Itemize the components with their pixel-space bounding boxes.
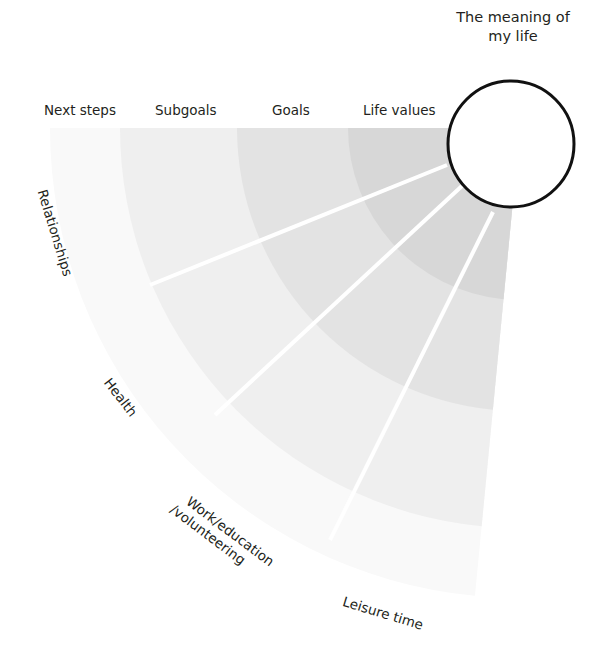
ring-label-subgoals: Subgoals xyxy=(155,104,217,118)
ring-label-life-values: Life values xyxy=(363,104,436,118)
ring-label-next-steps: Next steps xyxy=(44,104,116,118)
life-meaning-fan-diagram xyxy=(0,0,609,659)
center-label-line1: The meaning of xyxy=(448,8,578,27)
center-label: The meaning of my life xyxy=(448,8,578,46)
center-label-line2: my life xyxy=(448,27,578,46)
meaning-circle xyxy=(448,81,574,207)
ring-label-goals: Goals xyxy=(272,104,310,118)
